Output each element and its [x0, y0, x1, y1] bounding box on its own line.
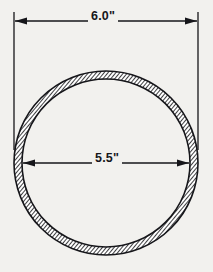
outer-dimension-label: 6.0" [88, 10, 118, 23]
pipe-wall-hatching [0, 0, 213, 272]
pipe-cross-section-drawing [0, 0, 213, 272]
inner-dimension-label: 5.5" [92, 152, 122, 165]
